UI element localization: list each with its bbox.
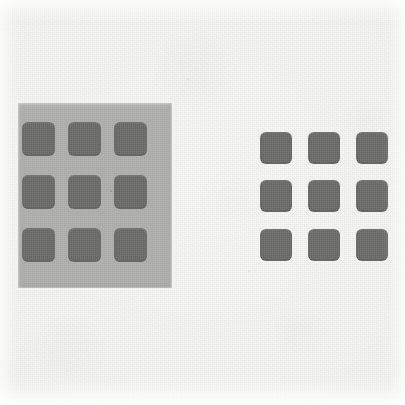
gray-patch-grain [356, 180, 388, 212]
gray-patch [308, 180, 340, 212]
gray-patch-grain [308, 180, 340, 212]
gray-patch [356, 180, 388, 212]
figure-canvas [0, 0, 405, 405]
gray-patch-grain [356, 229, 388, 261]
gray-patch [356, 132, 388, 164]
gray-patch [308, 132, 340, 164]
gray-patch-grain [356, 132, 388, 164]
gray-patch [260, 132, 292, 164]
gray-patch-grain [260, 229, 292, 261]
right-patch-grid [0, 0, 405, 405]
gray-patch-grain [260, 180, 292, 212]
gray-patch [260, 180, 292, 212]
gray-patch-grain [308, 132, 340, 164]
gray-patch-grain [308, 229, 340, 261]
gray-patch [260, 229, 292, 261]
gray-patch-grain [260, 132, 292, 164]
gray-patch [308, 229, 340, 261]
gray-patch [356, 229, 388, 261]
